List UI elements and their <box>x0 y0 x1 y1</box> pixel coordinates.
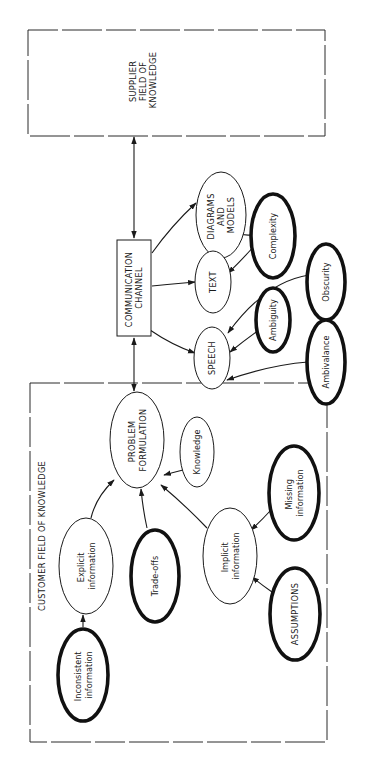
explicit-information-node: Explicit information <box>59 518 113 614</box>
edge-assumptions-implicit <box>252 577 272 592</box>
edge-channel-speech <box>150 330 195 353</box>
ambiguity-node: Ambiguity <box>256 288 290 352</box>
ambivalance-node: Ambivalance <box>307 320 345 404</box>
knowledge-communication-diagram: SUPPLIER FIELD OF KNOWLEDGE CUSTOMER FIE… <box>0 0 371 764</box>
supplier-field-label: SUPPLIER FIELD OF KNOWLEDGE <box>128 52 158 108</box>
problem-formulation-node: PROBLEM FORMULATION <box>110 392 164 488</box>
svg-text:Obscurity: Obscurity <box>321 262 331 301</box>
svg-text:SPEECH: SPEECH <box>207 341 217 375</box>
edge-missing-implicit <box>251 511 270 530</box>
knowledge-node: Knowledge <box>180 417 214 487</box>
communication-channel-node: COMMUNICATION CHANNEL <box>117 240 151 336</box>
edge-channel-diagrams <box>152 203 196 253</box>
trade-offs-node: Trade-offs <box>131 530 179 622</box>
svg-text:Ambiguity: Ambiguity <box>268 299 278 341</box>
missing-information-node: Missing information <box>269 446 319 540</box>
svg-text:Complexity: Complexity <box>268 213 278 259</box>
edge-ambiguity-speech <box>230 330 259 352</box>
edge-tradeoffs-problem <box>141 489 147 528</box>
svg-text:Ambivalance: Ambivalance <box>321 336 331 389</box>
svg-text:Knowledge: Knowledge <box>192 429 202 474</box>
obscurity-node: Obscurity <box>307 244 345 320</box>
svg-text:TEXT: TEXT <box>208 270 218 294</box>
inconsistent-information-node: Inconsistent information <box>58 629 108 721</box>
svg-text:Missing information: Missing information <box>284 469 305 516</box>
edge-implicit-problem <box>161 485 207 528</box>
speech-node: SPEECH <box>194 327 230 389</box>
implicit-information-node: Implicit information <box>203 508 257 604</box>
assumptions-node: ASSUMPTIONS <box>270 568 320 660</box>
edge-channel-text <box>152 282 195 286</box>
svg-text:Trade-offs: Trade-offs <box>150 556 160 597</box>
text-node: TEXT <box>195 251 231 313</box>
edge-knowledge-problem <box>164 470 183 475</box>
diagrams-and-models-node: DIAGRAMS AND MODELS <box>196 172 246 258</box>
edge-explicit-problem <box>91 480 114 518</box>
svg-text:PROBLEM FORMULATION: PROBLEM FORMULATION <box>127 409 148 472</box>
svg-text:Inconsistent information: Inconsistent information <box>73 649 94 701</box>
complexity-node: Complexity <box>251 194 295 278</box>
edge-ambivalance-speech <box>227 362 308 380</box>
customer-field-label: CUSTOMER FIELD OF KNOWLEDGE <box>37 461 47 611</box>
svg-text:ASSUMPTIONS: ASSUMPTIONS <box>290 583 300 645</box>
supplier-field-box: SUPPLIER FIELD OF KNOWLEDGE <box>28 30 325 136</box>
